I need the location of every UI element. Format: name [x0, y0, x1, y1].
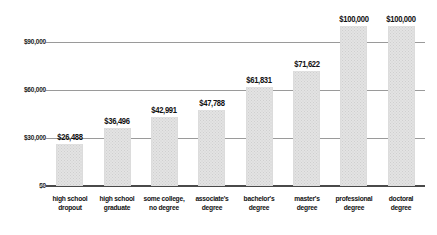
bar-chart: $0$30,000$60,000$90,000 $26,488high scho…	[0, 0, 437, 235]
x-axis-category-label: high schoolgraduate	[93, 194, 141, 212]
x-axis-category-line: master's	[282, 194, 330, 203]
bar-value-label: $42,991	[137, 106, 192, 114]
x-axis-category-line: degree	[188, 203, 236, 212]
x-axis-category-line: degree	[235, 203, 283, 212]
bar[interactable]	[198, 110, 225, 186]
bar-value-label: $61,831	[232, 76, 287, 84]
x-axis-category-line: high school	[46, 194, 94, 203]
bar-value-label: $47,788	[184, 99, 239, 107]
x-axis-category-line: doctoral	[377, 194, 425, 203]
bar-value-label: $26,488	[42, 133, 97, 141]
x-axis-category-line: professional	[330, 194, 378, 203]
x-axis-category-line: degree	[282, 203, 330, 212]
bar[interactable]	[293, 71, 320, 186]
x-axis-category-label: doctoraldegree	[377, 194, 425, 212]
bar[interactable]	[104, 128, 131, 186]
x-axis-category-line: degree	[377, 203, 425, 212]
x-axis-category-line: dropout	[46, 203, 94, 212]
x-axis-category-line: some college,	[140, 194, 188, 203]
x-axis-category-label: master'sdegree	[282, 194, 330, 212]
y-axis: $0$30,000$60,000$90,000	[0, 0, 46, 235]
x-axis-category-label: bachelor'sdegree	[235, 194, 283, 212]
x-axis-category-label: associate'sdegree	[188, 194, 236, 212]
y-tick-mark	[39, 90, 45, 91]
gridline-60000	[46, 90, 425, 91]
bar-value-label: $100,000	[374, 15, 429, 23]
x-axis-category-line: bachelor's	[235, 194, 283, 203]
x-axis-category-label: professionaldegree	[330, 194, 378, 212]
x-axis-category-line: associate's	[188, 194, 236, 203]
x-axis-category-line: degree	[330, 203, 378, 212]
bar[interactable]	[56, 144, 83, 186]
plot-area: $26,488high schooldropout$36,496high sch…	[46, 0, 425, 235]
bar[interactable]	[340, 26, 367, 186]
bar[interactable]	[388, 26, 415, 186]
x-axis-category-label: some college,no degree	[140, 194, 188, 212]
x-axis-category-label: high schooldropout	[46, 194, 94, 212]
bar-value-label: $36,496	[89, 117, 144, 125]
bar-value-label: $71,622	[279, 60, 334, 68]
y-tick-mark	[39, 42, 45, 43]
bar[interactable]	[151, 117, 178, 186]
gridline-90000	[46, 42, 425, 43]
x-axis-category-line: graduate	[93, 203, 141, 212]
x-axis-category-line: high school	[93, 194, 141, 203]
bar[interactable]	[246, 87, 273, 186]
x-axis-category-line: no degree	[140, 203, 188, 212]
y-tick-mark	[39, 185, 45, 186]
